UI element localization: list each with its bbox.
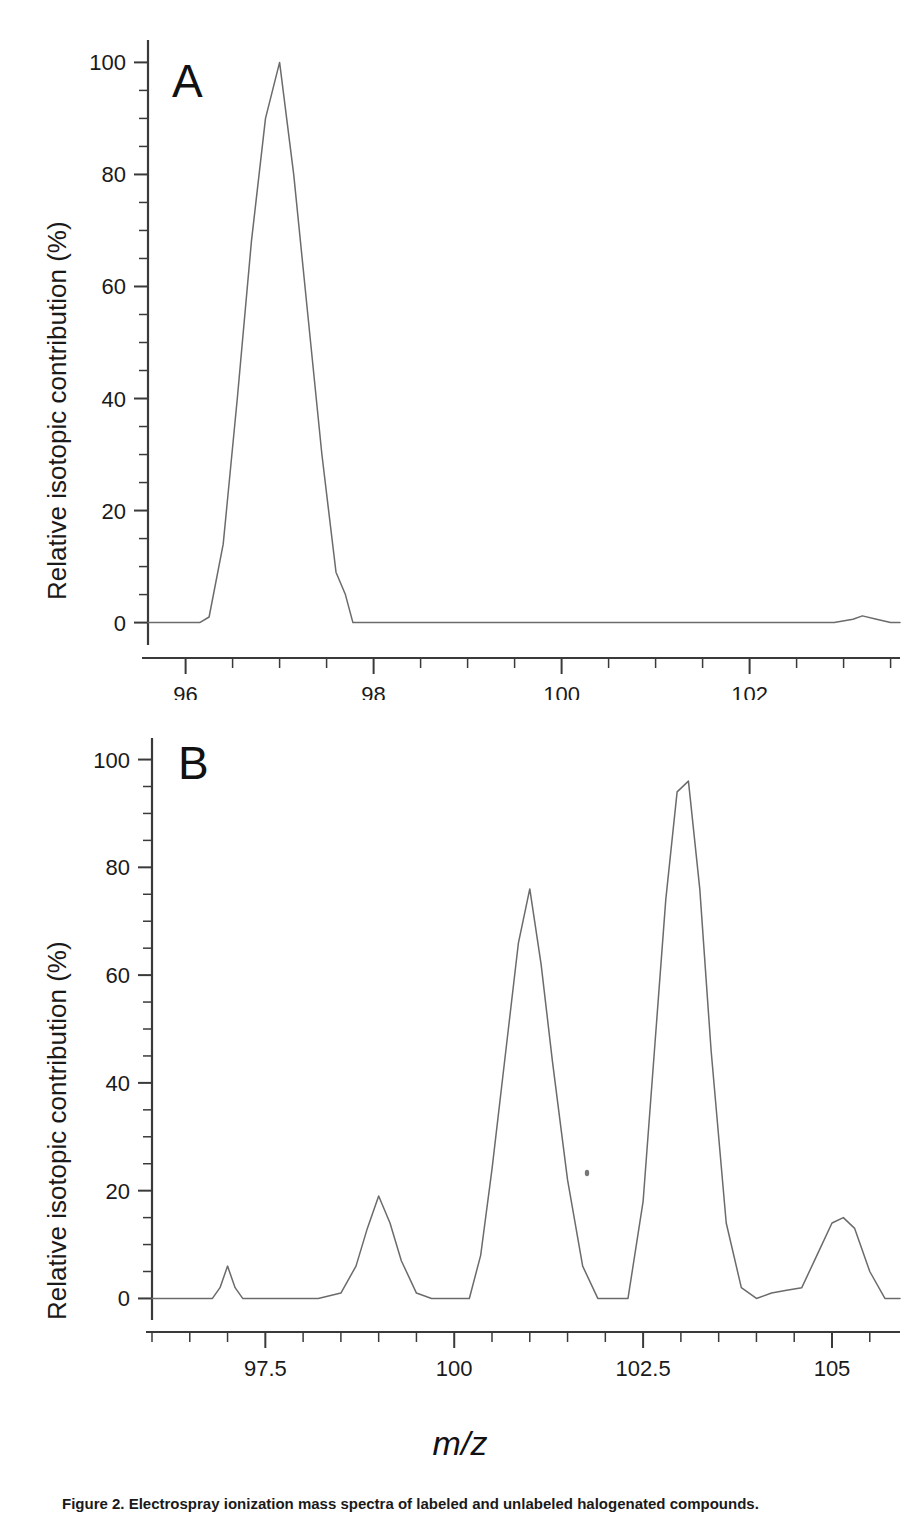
y-tick-label: 100	[93, 748, 130, 773]
x-tick-label: 100	[543, 682, 580, 700]
y-tick-label: 80	[106, 855, 130, 880]
panel-a-plot: 0204060801009698100102	[0, 0, 920, 700]
y-tick-label: 100	[89, 50, 126, 75]
x-axis-label: m/z	[0, 1424, 920, 1463]
speck-dot	[585, 1170, 589, 1176]
x-tick-label: 105	[814, 1356, 851, 1381]
x-tick-label: 100	[436, 1356, 473, 1381]
spectrum-trace	[148, 62, 900, 622]
y-tick-label: 40	[102, 387, 126, 412]
y-tick-label: 40	[106, 1071, 130, 1096]
x-tick-label: 98	[361, 682, 385, 700]
y-tick-label: 60	[106, 963, 130, 988]
scan-artifact-speck	[585, 1170, 589, 1176]
x-tick-label: 102.5	[616, 1356, 671, 1381]
x-tick-label: 97.5	[244, 1356, 287, 1381]
x-tick-label: 96	[173, 682, 197, 700]
panel-b: B Relative isotopic contribution (%) 020…	[0, 700, 920, 1420]
y-tick-label: 20	[106, 1179, 130, 1204]
y-tick-label: 0	[114, 611, 126, 636]
x-tick-label: 102	[731, 682, 768, 700]
y-tick-label: 80	[102, 162, 126, 187]
y-tick-label: 20	[102, 499, 126, 524]
figure-caption: Figure 2. Electrospray ionization mass s…	[62, 1494, 862, 1515]
panel-b-plot: 02040608010097.5100102.5105	[0, 700, 920, 1420]
figure-container: A Relative isotopic contribution (%) 020…	[0, 0, 920, 1515]
spectrum-trace	[152, 781, 900, 1298]
panel-a: A Relative isotopic contribution (%) 020…	[0, 0, 920, 700]
y-tick-label: 0	[118, 1286, 130, 1311]
y-tick-label: 60	[102, 274, 126, 299]
